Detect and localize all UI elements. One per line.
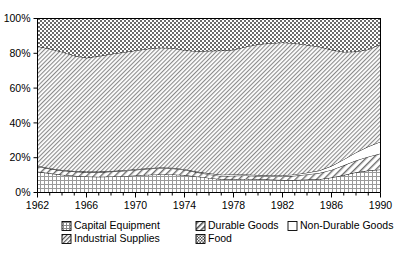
y-tick-label: 40% (9, 117, 30, 129)
y-tick-label: 100% (4, 12, 31, 24)
legend-swatch-industrial-supplies (62, 235, 71, 244)
x-tick-label: 1962 (26, 199, 50, 211)
legend-label-food: Food (208, 232, 232, 244)
x-tick-label: 1982 (271, 199, 295, 211)
legend-label-capital-equipment: Capital Equipment (74, 219, 160, 231)
x-tick-label: 1970 (124, 199, 148, 211)
x-tick-label: 1978 (222, 199, 246, 211)
legend-swatch-capital-equipment (62, 222, 71, 231)
y-tick-label: 20% (9, 151, 30, 163)
legend-label-durable-goods: Durable Goods (208, 219, 279, 231)
area-industrial-supplies (38, 43, 381, 176)
x-tick-label: 1974 (173, 199, 197, 211)
x-tick-label: 1966 (75, 199, 99, 211)
y-tick-label: 0% (15, 186, 30, 198)
legend-swatch-non-durable-goods (288, 222, 297, 231)
area-series-group (38, 19, 381, 193)
y-tick-label: 80% (9, 47, 30, 59)
legend-label-non-durable-goods: Non-Durable Goods (300, 219, 393, 231)
legend-swatch-durable-goods (196, 222, 205, 231)
legend-label-industrial-supplies: Industrial Supplies (74, 232, 160, 244)
y-tick-label: 60% (9, 82, 30, 94)
legend-swatch-food (196, 235, 205, 244)
stacked-area-chart: 0%20%40%60%80%100% 196219661970197419781… (0, 0, 402, 258)
chart-canvas: 0%20%40%60%80%100% 196219661970197419781… (0, 0, 402, 258)
x-tick-label: 1986 (320, 199, 344, 211)
x-tick-label: 1990 (369, 199, 393, 211)
